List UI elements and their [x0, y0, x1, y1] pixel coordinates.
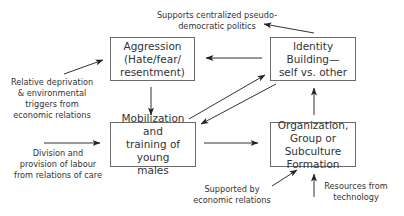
arrow-economic-to-organization	[272, 170, 297, 186]
label-supports-politics: Supports centralized pseudo- democratic …	[152, 10, 282, 32]
label-resources-technology: Resources from technology	[320, 181, 392, 203]
label-relative-deprivation: Relative deprivation & environmental tri…	[4, 77, 100, 121]
label-division-labour: Division and provision of labour from re…	[10, 148, 106, 181]
arrow-mobilization-to-identity	[189, 75, 265, 119]
arrow-deprivation-to-aggression	[64, 60, 103, 74]
node-mobilization: Mobilization and training of young males	[110, 122, 196, 167]
node-aggression: Aggression (Hate/fear/ resentment)	[110, 37, 195, 81]
label-supported-economic: Supported by economic relations	[192, 184, 272, 206]
node-identity-building: Identity Building— self vs. other	[270, 37, 356, 81]
node-organization: Organization, Group or Subculture Format…	[270, 122, 356, 167]
